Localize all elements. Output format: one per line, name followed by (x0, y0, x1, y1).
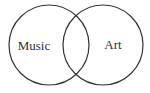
set-circle-art (63, 5, 143, 85)
venn-diagram: Music Art (0, 0, 150, 93)
set-label-art: Art (104, 37, 122, 52)
set-label-music: Music (18, 38, 51, 53)
